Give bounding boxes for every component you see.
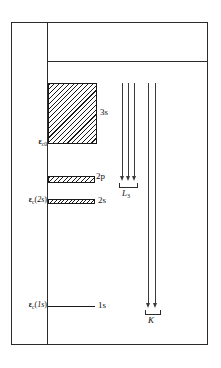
- arrowhead-icon: [132, 176, 136, 181]
- arrowhead-icon: [126, 176, 130, 181]
- band-2s: [48, 199, 95, 204]
- transition-arrow-k-2: [155, 83, 156, 306]
- arrowhead-icon: [146, 303, 150, 308]
- state-label-2s: 2s: [98, 196, 106, 205]
- energy-label-ec0: εc0: [38, 138, 47, 146]
- level-1s: [48, 306, 95, 307]
- arrowhead-icon: [120, 176, 124, 181]
- energy-level-diagram: εc0 εc(2s) εc(1s) 3s 2p 2s 1s L3 K: [0, 0, 221, 368]
- state-label-3s: 3s: [100, 108, 108, 117]
- state-label-2p: 2p: [96, 172, 105, 181]
- transition-arrow-k-1: [148, 83, 149, 306]
- figure-frame: [11, 22, 208, 345]
- band-2p: [48, 176, 95, 183]
- transition-label-l3: L3: [122, 189, 130, 198]
- energy-label-ec-2s: εc(2s): [29, 196, 47, 204]
- band-3s: [48, 83, 97, 144]
- transition-label-k: K: [148, 316, 154, 325]
- transition-arrow-l3-1: [122, 83, 123, 179]
- state-label-1s: 1s: [98, 301, 106, 310]
- arrowhead-icon: [153, 303, 157, 308]
- continuum-threshold-line: [47, 61, 208, 62]
- energy-axis: [47, 22, 48, 345]
- energy-label-ec-1s: εc(1s): [29, 301, 47, 309]
- transition-arrow-l3-2: [128, 83, 129, 179]
- transition-arrow-l3-3: [134, 83, 135, 179]
